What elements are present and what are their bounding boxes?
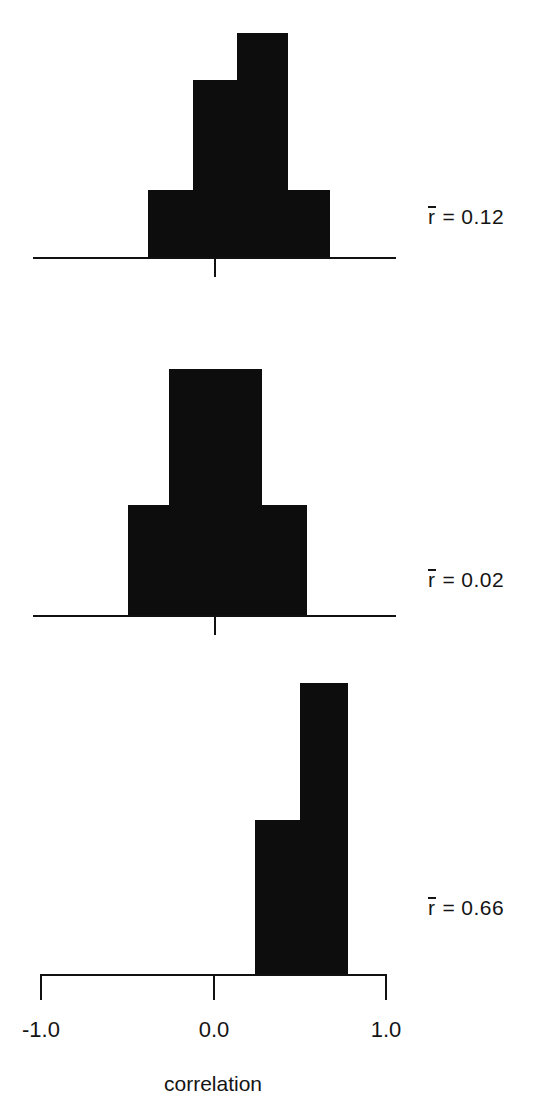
x-axis-tick-one [385, 974, 387, 1000]
equals-sign-middle: = [443, 568, 456, 591]
plot-area-top [0, 0, 420, 300]
plot-area-middle [0, 340, 420, 660]
mean-r-label-bottom: r=0.66 [427, 896, 504, 920]
histogram-figure: r=0.12 r=0.02 r=0.66 [0, 0, 555, 1118]
histogram-bar [237, 33, 288, 258]
x-axis-tick-minus-one [40, 974, 42, 1000]
histogram-bar [255, 820, 300, 974]
x-axis: -1.0 0.0 1.0 correlation [0, 960, 555, 1118]
r-bar-symbol-top: r [427, 205, 437, 229]
x-axis-ticklabel-minus-one: -1.0 [0, 1017, 82, 1043]
equals-sign-bottom: = [443, 896, 456, 919]
x-axis-title: correlation [113, 1072, 313, 1096]
histogram-bar [300, 683, 348, 974]
x-axis-tick-zero [213, 974, 215, 1000]
histogram-bar [128, 505, 307, 616]
mean-r-value-bottom: 0.66 [461, 896, 504, 919]
mean-r-value-top: 0.12 [461, 205, 504, 228]
histogram-panel-top: r=0.12 [0, 0, 555, 300]
mean-r-value-middle: 0.02 [461, 568, 504, 591]
histogram-bar [148, 190, 193, 258]
equals-sign-top: = [443, 205, 456, 228]
histogram-bar [288, 190, 330, 258]
x-axis-ticklabel-zero: 0.0 [173, 1017, 255, 1043]
histogram-bar [193, 80, 237, 258]
mean-r-label-middle: r=0.02 [427, 568, 504, 592]
histogram-panel-middle: r=0.02 [0, 340, 555, 660]
r-bar-symbol-middle: r [427, 568, 437, 592]
r-bar-symbol-bottom: r [427, 896, 437, 920]
zero-tick-middle [214, 617, 216, 635]
histogram-panel-bottom: r=0.66 [0, 660, 555, 976]
plot-area-bottom [0, 660, 420, 976]
x-axis-ticklabel-one: 1.0 [345, 1017, 427, 1043]
mean-r-label-top: r=0.12 [427, 205, 504, 229]
zero-tick-top [214, 259, 216, 277]
